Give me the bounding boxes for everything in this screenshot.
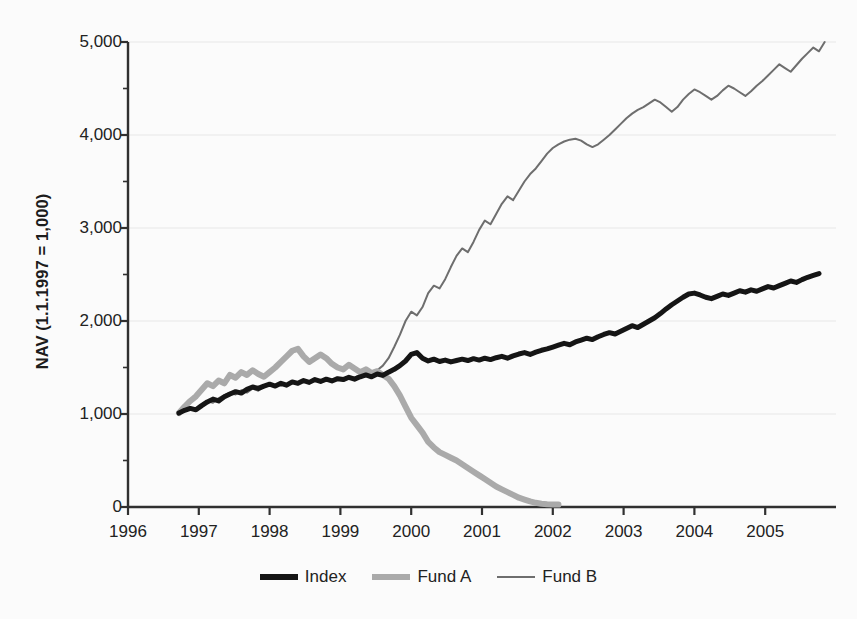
legend-label: Fund B <box>542 568 597 585</box>
legend-swatch-icon <box>260 574 298 580</box>
series-line-index <box>179 274 819 414</box>
legend-item-index[interactable]: Index <box>260 568 347 585</box>
legend-label: Index <box>305 568 347 585</box>
legend-swatch-icon <box>372 574 410 580</box>
legend-item-funda[interactable]: Fund A <box>372 568 471 585</box>
chart-legend: IndexFund AFund B <box>0 568 857 585</box>
legend-swatch-icon <box>497 576 535 578</box>
series-line-fund-a <box>179 349 558 505</box>
chart-container: NAV (1.1.1997 = 1,000) 01,0002,0003,0004… <box>0 0 857 619</box>
plot-area <box>0 0 857 619</box>
legend-item-fundb[interactable]: Fund B <box>497 568 597 585</box>
legend-label: Fund A <box>417 568 471 585</box>
